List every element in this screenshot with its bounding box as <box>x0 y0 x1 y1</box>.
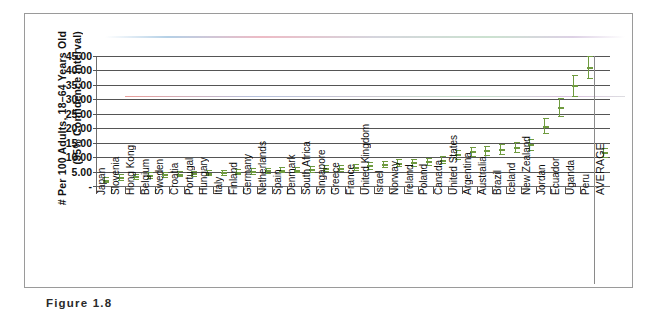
ci-lower-cap <box>514 152 520 153</box>
data-point-marker <box>383 161 384 168</box>
x-axis-category-label: Singapore <box>317 149 327 195</box>
point-estimate-cap <box>587 67 593 69</box>
gridline <box>97 128 610 129</box>
x-axis-category-label: Brazil <box>493 170 503 195</box>
data-point-marker <box>559 98 560 115</box>
ci-upper-cap <box>221 170 227 171</box>
data-point-marker <box>588 56 589 78</box>
x-axis-category-label: Poland <box>419 164 429 195</box>
y-axis-tick-mark <box>93 56 97 57</box>
point-estimate-cap <box>572 85 578 87</box>
x-axis-category-label: Uganda <box>566 160 576 195</box>
point-estimate-cap <box>484 150 490 152</box>
plot-wrapper: -5.0010.0015.0020.0025.0030.0035.0040.00… <box>25 14 634 289</box>
data-point-marker <box>500 144 501 154</box>
y-axis-tick-label: 45.00 <box>66 50 92 62</box>
x-axis-category-label: Australia <box>478 156 488 195</box>
ci-lower-cap <box>572 96 578 97</box>
y-axis-tick-label: 25.00 <box>66 108 92 120</box>
x-axis-category-label: Italy <box>214 177 224 195</box>
ci-lower-cap <box>543 133 549 134</box>
ci-upper-cap <box>426 158 432 159</box>
x-axis-category-label: Canada <box>434 160 444 195</box>
x-axis-category-label: Greece <box>331 162 341 195</box>
data-point-marker <box>573 75 574 95</box>
x-axis-category-label: Denmark <box>287 154 297 195</box>
y-axis-tick-label: 35.00 <box>66 79 92 91</box>
x-axis-category-label: Peru <box>581 174 591 195</box>
point-estimate-cap <box>382 164 388 166</box>
x-axis-category-label: Iceland <box>507 163 517 195</box>
x-axis-category-label: Hong Kong <box>126 145 136 195</box>
ci-upper-cap <box>279 167 285 168</box>
y-axis-tick-mark <box>93 85 97 86</box>
y-axis-tick-mark <box>93 128 97 129</box>
x-axis-category-label: France <box>346 164 356 195</box>
x-axis-category-label: Slovenia <box>111 157 121 195</box>
figure-caption: Figure 1.8 <box>46 297 112 309</box>
x-axis-category-label: New Zealand <box>522 136 532 195</box>
ci-upper-cap <box>558 98 564 99</box>
x-axis-category-label: Ireland <box>405 164 415 195</box>
data-point-marker <box>544 118 545 132</box>
ci-lower-cap <box>587 78 593 79</box>
x-axis-category-label: Croatia <box>170 163 180 195</box>
x-axis-category-label: AVERAGE <box>595 143 606 195</box>
x-axis-category-label: Argentina <box>463 152 473 195</box>
y-axis-tick-label: 10.00 <box>66 151 92 163</box>
y-axis-tick-mark <box>93 114 97 115</box>
y-axis-tick-label: 30.00 <box>66 93 92 105</box>
ci-upper-cap <box>440 156 446 157</box>
point-estimate-cap <box>499 149 505 151</box>
ci-upper-cap <box>411 159 417 160</box>
ci-upper-cap <box>382 161 388 162</box>
ci-upper-cap <box>543 118 549 119</box>
ci-lower-cap <box>382 167 388 168</box>
ci-upper-cap <box>499 144 505 145</box>
x-axis-labels: JapanSloveniaHong KongBelgiumSwedenCroat… <box>96 195 609 283</box>
point-estimate-cap <box>543 126 549 128</box>
y-axis-tick-label: 40.00 <box>66 64 92 76</box>
y-axis-tick-mark <box>93 143 97 144</box>
average-separator-line <box>594 56 595 284</box>
chart-figure-frame: # Per 100 Adults, 18–64 Years Old (95% C… <box>24 13 633 288</box>
data-point-marker <box>485 146 486 155</box>
y-axis-tick-label: 5.00 <box>72 166 92 178</box>
gridline <box>97 99 610 100</box>
ci-upper-cap <box>514 142 520 143</box>
gridline <box>97 114 610 115</box>
x-axis-category-label: South Africa <box>302 141 312 195</box>
y-axis-tick-label: - <box>89 180 93 192</box>
x-axis-category-label: Belgium <box>141 159 151 195</box>
ci-lower-cap <box>558 116 564 117</box>
ci-upper-cap <box>484 146 490 147</box>
x-axis-category-label: Sweden <box>155 159 165 195</box>
x-axis-category-label: Netherlands <box>258 141 268 195</box>
x-axis-category-label: Finland <box>229 162 239 195</box>
point-estimate-cap <box>558 107 564 109</box>
point-estimate-cap <box>514 147 520 149</box>
ci-upper-cap <box>572 75 578 76</box>
x-axis-category-label: Jordan <box>537 164 547 195</box>
x-axis-category-label: United Kingdom <box>361 124 371 195</box>
x-axis-category-label: Germany <box>243 154 253 195</box>
x-axis-category-label: Spain <box>273 169 283 195</box>
y-axis-tick-label: 20.00 <box>66 122 92 134</box>
data-point-marker <box>222 170 223 175</box>
gridline <box>97 70 610 71</box>
ci-lower-cap <box>499 154 505 155</box>
x-axis-category-label: Hungary <box>199 157 209 195</box>
ci-upper-cap <box>470 147 476 148</box>
gridline <box>97 157 610 158</box>
x-axis-category-label: Israel <box>375 171 385 195</box>
y-axis-tick-mark <box>93 70 97 71</box>
x-axis-category-label: Portugal <box>185 158 195 195</box>
x-axis-category-label: Japan <box>97 168 107 195</box>
data-point-marker <box>515 142 516 152</box>
y-axis-tick-label: 15.00 <box>66 137 92 149</box>
y-axis-tick-mark <box>93 99 97 100</box>
gridline <box>97 85 610 86</box>
x-axis-category-label: Ecuador <box>551 158 561 195</box>
ci-upper-cap <box>587 56 593 57</box>
gridline <box>97 56 610 57</box>
